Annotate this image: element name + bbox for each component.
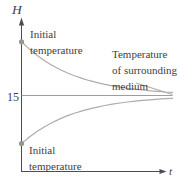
label-line: medium xyxy=(112,78,177,94)
upper-start-dot xyxy=(19,39,24,44)
cooling-curves-figure: H t 15 Initial temperature Temperature o… xyxy=(0,0,181,186)
lower-initial-temperature-label: Initial temperature xyxy=(29,142,82,174)
lower-warming-curve xyxy=(22,98,174,143)
upper-initial-temperature-label: Initial temperature xyxy=(30,26,83,58)
label-line: Temperature xyxy=(112,46,177,62)
label-line: Initial xyxy=(30,26,83,42)
label-line: Initial xyxy=(29,142,82,158)
y-axis-arrow-icon xyxy=(19,18,24,26)
surrounding-medium-label: Temperature of surrounding medium xyxy=(112,46,177,94)
label-line: temperature xyxy=(29,158,82,174)
x-axis-arrow-icon xyxy=(160,169,167,174)
asymptote-tick-label: 15 xyxy=(0,89,19,105)
x-axis-title: t xyxy=(169,163,172,179)
lower-start-dot xyxy=(19,141,24,146)
label-line: temperature xyxy=(30,42,83,58)
y-axis-title: H xyxy=(12,2,22,18)
label-line: of surrounding xyxy=(112,62,177,78)
